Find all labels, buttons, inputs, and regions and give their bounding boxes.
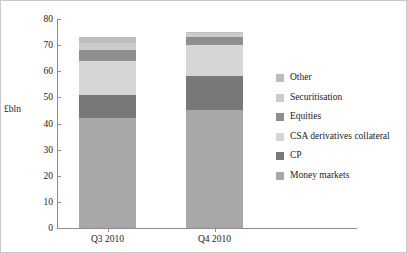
bar-q3-2010: [79, 19, 136, 228]
y-axis-tick-label: 70: [8, 40, 53, 50]
bar-segment-other: [79, 37, 136, 42]
legend-item-label: Other: [290, 70, 312, 84]
y-axis-tick-label: 60: [8, 66, 53, 76]
y-axis-tick: [57, 71, 61, 72]
legend-swatch-icon: [276, 94, 284, 102]
y-axis-tick-label-text: 20: [13, 171, 53, 181]
legend-item: Money markets: [276, 168, 402, 188]
legend-item: Other: [276, 70, 402, 90]
y-axis-tick: [57, 228, 61, 229]
bar-segment-securitisation: [186, 33, 243, 37]
legend-item: Equities: [276, 109, 402, 129]
bar-segment-money-markets: [186, 110, 243, 228]
legend-item: CP: [276, 148, 402, 168]
y-axis-tick-label-text: 70: [13, 40, 53, 50]
y-axis-title: £bln: [4, 104, 21, 114]
legend-item-label: Money markets: [290, 168, 349, 182]
y-axis-tick: [57, 97, 61, 98]
legend-item-label: CP: [290, 148, 302, 162]
bar-segment-money-markets: [79, 118, 136, 228]
y-axis-tick-label-text: 40: [13, 119, 53, 129]
legend-item: Securitisation: [276, 90, 402, 110]
x-axis-tick: [108, 228, 109, 232]
y-axis-tick-label: 50: [8, 92, 53, 102]
y-axis-tick-label-text: 80: [13, 14, 53, 24]
bar-segment-securitisation: [79, 43, 136, 51]
y-axis-tick: [57, 176, 61, 177]
legend-item: CSA derivatives collateral: [276, 129, 402, 149]
y-axis-tick-label: 40: [8, 119, 53, 129]
legend-swatch-icon: [276, 172, 284, 180]
x-axis-tick-label: Q3 2010: [63, 234, 153, 245]
chart-legend: OtherSecuritisationEquitiesCSA derivativ…: [276, 70, 402, 187]
plot-area: £bln 01020304050607080 Q3 2010Q4 2010: [0, 0, 270, 253]
y-axis-tick-label: 30: [8, 145, 53, 155]
y-axis-tick: [57, 45, 61, 46]
y-axis-tick-label-text: 60: [13, 66, 53, 76]
bar-segment-equities: [79, 50, 136, 60]
bar-segment-other: [186, 32, 243, 33]
legend-swatch-icon: [276, 133, 284, 141]
bar-segment-cp: [79, 95, 136, 119]
y-axis-tick-label: 10: [8, 197, 53, 207]
legend-item-label: CSA derivatives collateral: [290, 129, 390, 143]
bar-segment-equities: [186, 37, 243, 45]
y-axis-tick-label-text: 0: [13, 223, 53, 233]
bar-segment-csa-derivatives-collateral: [186, 45, 243, 76]
x-axis-tick: [215, 228, 216, 232]
y-axis-tick-label-text: 10: [13, 197, 53, 207]
legend-swatch-icon: [276, 74, 284, 82]
x-axis-line: [57, 228, 357, 229]
legend-item-label: Securitisation: [290, 90, 342, 104]
y-axis-tick: [57, 124, 61, 125]
y-axis-tick-label-text: 50: [13, 92, 53, 102]
bar-segment-csa-derivatives-collateral: [79, 61, 136, 95]
bar-segment-cp: [186, 76, 243, 110]
y-axis-tick: [57, 19, 61, 20]
chart-page: £bln 01020304050607080 Q3 2010Q4 2010 Ot…: [0, 0, 407, 253]
y-axis-tick-label: 80: [8, 14, 53, 24]
bar-q4-2010: [186, 19, 243, 228]
legend-swatch-icon: [276, 113, 284, 121]
y-axis-tick-label: 20: [8, 171, 53, 181]
y-axis-tick: [57, 150, 61, 151]
legend-item-label: Equities: [290, 109, 321, 123]
y-axis-tick: [57, 202, 61, 203]
x-axis-tick-label: Q4 2010: [170, 234, 260, 245]
y-axis-tick-label-text: 30: [13, 145, 53, 155]
legend-swatch-icon: [276, 152, 284, 160]
y-axis-tick-label: 0: [8, 223, 53, 233]
